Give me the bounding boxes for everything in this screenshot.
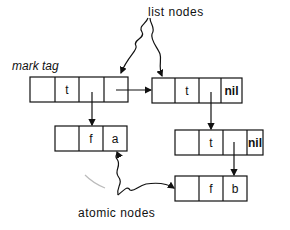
node-d-tag: t — [199, 136, 223, 150]
node-e-value: b — [223, 182, 247, 196]
node-e-tag: f — [199, 182, 223, 196]
node-b-nil: nil — [221, 84, 242, 98]
linked-list-diagram: list nodes mark tag atomic nodes t t nil… — [0, 0, 290, 230]
mark-tag-label: mark tag — [12, 59, 59, 73]
node-d-nil: nil — [247, 136, 263, 150]
node-c-value: a — [103, 132, 127, 146]
atomic-nodes-label: atomic nodes — [78, 206, 155, 220]
list-nodes-label: list nodes — [148, 5, 204, 19]
node-a-tag: t — [55, 83, 79, 97]
node-b-tag: t — [175, 84, 199, 98]
node-c-tag: f — [79, 132, 103, 146]
